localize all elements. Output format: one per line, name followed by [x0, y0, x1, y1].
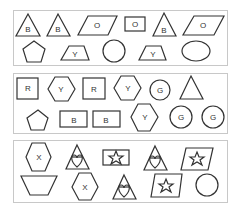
p3-r2-hexagon-x: X [72, 173, 98, 200]
p2-r1-hexagon-y2: Y [114, 76, 141, 100]
shapes-canvas: B B O O B O Y Y R Y [0, 0, 234, 211]
p1-r2-trapezoid-y2: Y [139, 46, 166, 60]
p2-r1-circle-g: G [150, 80, 170, 100]
svg-text:Y: Y [72, 50, 78, 59]
svg-text:O: O [94, 21, 100, 30]
p3-r1-hexagon-x: X [26, 143, 51, 171]
p1-r2-pentagon [23, 41, 45, 62]
p2-r1-triangle [180, 76, 203, 99]
p3-r2-trapezoid-inverted [21, 176, 57, 195]
p3-r2-triangle-heart [113, 175, 136, 199]
p3-r1-triangle-heart2 [144, 146, 167, 170]
p2-r1-square-r2: R [83, 78, 105, 99]
star-icon [109, 151, 123, 164]
svg-text:B: B [71, 116, 76, 125]
svg-text:O: O [200, 21, 206, 30]
p2-r2-hexagon-y: Y [131, 104, 158, 131]
svg-text:G: G [178, 113, 184, 122]
svg-text:Y: Y [125, 84, 131, 93]
p1-r1-rectangle-o: O [125, 17, 145, 31]
p2-r1-square-r: R [17, 78, 38, 99]
svg-text:R: R [91, 85, 97, 94]
p2-r1-hexagon-y: Y [48, 77, 75, 101]
svg-text:Y: Y [150, 50, 156, 59]
svg-text:Y: Y [58, 85, 64, 94]
p3-r2-circle [196, 174, 218, 196]
svg-text:G: G [157, 86, 163, 95]
p1-r1-triangle-b: B [16, 14, 40, 36]
p1-r1-0-label: B [25, 25, 30, 34]
p1-r1-parallelogram-o: O [78, 16, 117, 35]
svg-text:O: O [132, 20, 138, 29]
p2-r2-rectangle-b: B [60, 111, 87, 127]
p1-r1-triangle-b3: B [153, 13, 176, 36]
svg-text:R: R [25, 84, 31, 93]
p2-r2-circle-g2: G [202, 106, 224, 128]
svg-text:B: B [103, 116, 108, 125]
svg-text:B: B [161, 26, 166, 35]
p1-r1-parallelogram-o2: O [183, 16, 224, 35]
svg-text:Y: Y [142, 113, 148, 122]
svg-text:X: X [82, 183, 88, 192]
p3-r1-rectangle-star [103, 150, 129, 165]
star-icon [190, 152, 204, 165]
svg-text:G: G [210, 113, 216, 122]
svg-text:X: X [36, 153, 42, 162]
p1-r2-trapezoid-y: Y [61, 46, 89, 60]
svg-text:B: B [55, 25, 60, 34]
p1-r2-ellipse [182, 41, 210, 61]
star-icon [159, 179, 173, 192]
p3-r2-parallelogram-star [151, 174, 182, 197]
p3-r1-parallelogram-star [181, 148, 213, 170]
p1-r1-triangle-b2: B [47, 14, 70, 36]
p2-r2-pentagon [27, 110, 48, 130]
p3-r1-triangle-heart [66, 145, 89, 169]
p2-r2-rectangle-b2: B [93, 111, 120, 127]
p2-r2-circle-g: G [170, 106, 192, 128]
p1-r2-circle [103, 40, 125, 62]
